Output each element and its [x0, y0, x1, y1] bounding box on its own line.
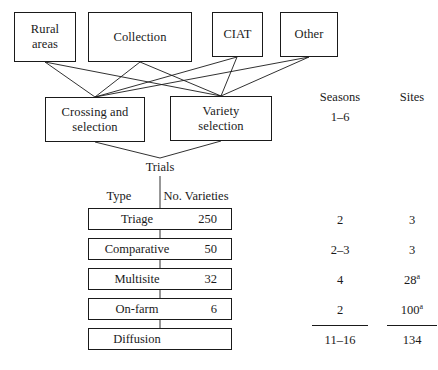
seasons-top-value: 1–6 — [331, 110, 350, 125]
stage-box-diffusion[interactable]: Diffusion — [88, 328, 232, 350]
node-collection-label: Collection — [113, 30, 166, 45]
sites-footnote-marker: a — [420, 302, 424, 311]
stage-box-multisite[interactable]: Multisite 32 — [88, 268, 232, 290]
sites-column-header: Sites — [400, 90, 424, 105]
node-collection[interactable]: Collection — [88, 12, 192, 62]
stage-type-label: Triage — [89, 212, 185, 227]
stage-type-label: Diffusion — [89, 332, 185, 347]
node-crossing-and-selection-label: Crossing and selection — [62, 105, 129, 135]
stage-varieties-value: 32 — [191, 272, 217, 287]
stage-box-comparative[interactable]: Comparative 50 — [88, 238, 232, 260]
node-other-label: Other — [295, 27, 324, 42]
node-crossing-and-selection[interactable]: Crossing and selection — [45, 97, 145, 142]
sites-value-on-farm: 100a — [401, 303, 423, 318]
sites-value-text: 100 — [401, 303, 420, 317]
seasons-value-triage: 2 — [337, 213, 343, 228]
trials-label: Trials — [146, 160, 175, 175]
stage-varieties-value: 50 — [191, 242, 217, 257]
seasons-total-rule — [312, 325, 368, 326]
seasons-value-comparative: 2–3 — [331, 243, 350, 258]
stage-varieties-value: 6 — [191, 302, 217, 317]
sites-value-comparative: 3 — [409, 243, 415, 258]
node-rural-areas[interactable]: Rural areas — [14, 12, 76, 62]
seasons-value-multisite: 4 — [337, 273, 343, 288]
flow-diagram: Rural areas Collection CIAT Other Crossi… — [0, 0, 438, 370]
node-ciat-label: CIAT — [223, 27, 251, 42]
sites-value-text: 3 — [409, 213, 415, 227]
sites-value-text: 28 — [404, 273, 417, 287]
varieties-column-header: No. Varieties — [163, 189, 228, 204]
node-ciat[interactable]: CIAT — [212, 12, 263, 57]
node-rural-areas-label: Rural areas — [31, 22, 59, 52]
stage-box-on-farm[interactable]: On-farm 6 — [88, 298, 232, 320]
sites-total-rule — [387, 325, 437, 326]
type-column-header: Type — [107, 189, 132, 204]
stage-type-label: On-farm — [89, 302, 185, 317]
node-variety-selection-label: Variety selection — [198, 104, 243, 134]
sites-footnote-marker: a — [416, 272, 420, 281]
sites-value-text: 3 — [409, 243, 415, 257]
stage-varieties-value: 250 — [191, 212, 217, 227]
seasons-value-on-farm: 2 — [337, 303, 343, 318]
seasons-column-header: Seasons — [320, 90, 360, 105]
stage-type-label: Comparative — [89, 242, 185, 257]
stage-type-label: Multisite — [89, 272, 185, 287]
sites-value-triage: 3 — [409, 213, 415, 228]
node-variety-selection[interactable]: Variety selection — [170, 96, 272, 141]
stage-box-triage[interactable]: Triage 250 — [88, 208, 232, 230]
node-other[interactable]: Other — [280, 12, 338, 57]
seasons-total-value: 11–16 — [325, 333, 356, 348]
sites-value-multisite: 28a — [404, 273, 420, 288]
sites-total-value: 134 — [403, 333, 422, 348]
